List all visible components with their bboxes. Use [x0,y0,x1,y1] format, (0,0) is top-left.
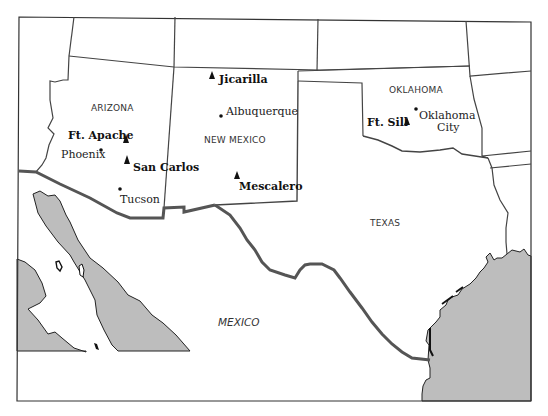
baja-water-region [33,191,190,351]
city-label-oklahoma-city-line1: Oklahoma [419,110,475,121]
city-dot-tucson [118,187,122,191]
city-label-albuquerque: Albuquerque [226,106,298,117]
island [56,261,62,271]
state-border [363,136,488,158]
city-dot-oklahoma-city [414,107,418,111]
state-border [488,158,508,254]
region-label-mexico: MEXICO [218,317,260,328]
state-border [298,66,470,71]
city-label-phoenix: Phoenix [61,149,105,160]
pacific-water-region [17,259,86,352]
region-label-oklahoma: OKLAHOMA [389,86,443,95]
map-canvas [0,0,548,416]
city-dot-albuquerque [219,114,223,118]
region-label-arizona: ARIZONA [91,104,134,113]
reservation-label-ft-sill: Ft. Sill [367,117,408,128]
island [94,343,99,350]
state-border [490,164,531,168]
city-label-tucson: Tucson [120,194,160,205]
state-border [317,19,318,71]
state-border [298,81,363,136]
reservation-label-san-carlos: San Carlos [133,162,199,173]
reservation-label-mescalero: Mescalero [239,181,303,192]
reservation-label-jicarilla: Jicarilla [219,74,268,85]
gulf-of-mexico-water-region [422,249,531,401]
region-label-texas: TEXAS [370,219,400,228]
city-label-oklahoma-city-line2: City [437,122,460,133]
international-border [215,205,430,360]
state-border [482,151,531,156]
state-border [466,21,531,76]
region-label-new-mexico: NEW MEXICO [204,136,266,145]
reservation-label-ft-apache: Ft. Apache [68,130,134,141]
